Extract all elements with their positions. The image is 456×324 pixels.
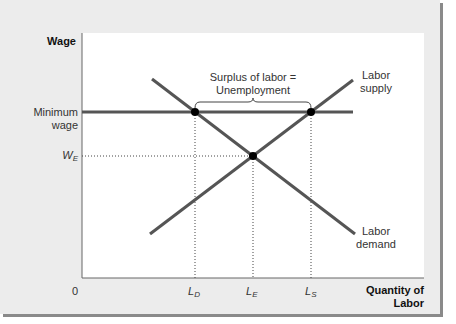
x-axis-label-line1: Quantity of [350, 284, 424, 297]
labor-supply-label: Labor supply [356, 69, 396, 95]
we-label: WE [40, 149, 78, 165]
origin-label: 0 [72, 285, 78, 298]
labor-supply-label-line1: Labor [356, 69, 396, 82]
surplus-brace [195, 98, 311, 108]
x-axis-label: Quantity of Labor [350, 284, 424, 310]
labor-demand-label: Labor demand [354, 225, 398, 251]
labor-demand-label-line2: demand [354, 238, 398, 251]
equilibrium-point [249, 152, 257, 160]
le-label-sub: E [252, 290, 257, 299]
ls-label: LS [305, 285, 316, 301]
labor-supply-label-line2: supply [356, 82, 396, 95]
x-axis-label-line2: Labor [350, 297, 424, 310]
we-label-sub: E [73, 154, 78, 163]
we-label-main: W [62, 149, 72, 161]
ld-point [191, 108, 199, 116]
ld-label: LD [188, 285, 200, 301]
labor-demand-label-line1: Labor [354, 225, 398, 238]
surplus-annotation-line2: Unemployment [193, 84, 313, 97]
ls-label-sub: S [311, 290, 316, 299]
le-label: LE [246, 285, 257, 301]
minimum-wage-label: Minimum wage [20, 106, 78, 132]
surplus-annotation-line1: Surplus of labor = [193, 71, 313, 84]
surplus-annotation: Surplus of labor = Unemployment [193, 71, 313, 97]
ls-point [307, 108, 315, 116]
minimum-wage-label-line2: wage [20, 119, 78, 132]
minimum-wage-label-line1: Minimum [20, 106, 78, 119]
ld-label-sub: D [194, 290, 200, 299]
y-axis-label: Wage [20, 35, 76, 48]
